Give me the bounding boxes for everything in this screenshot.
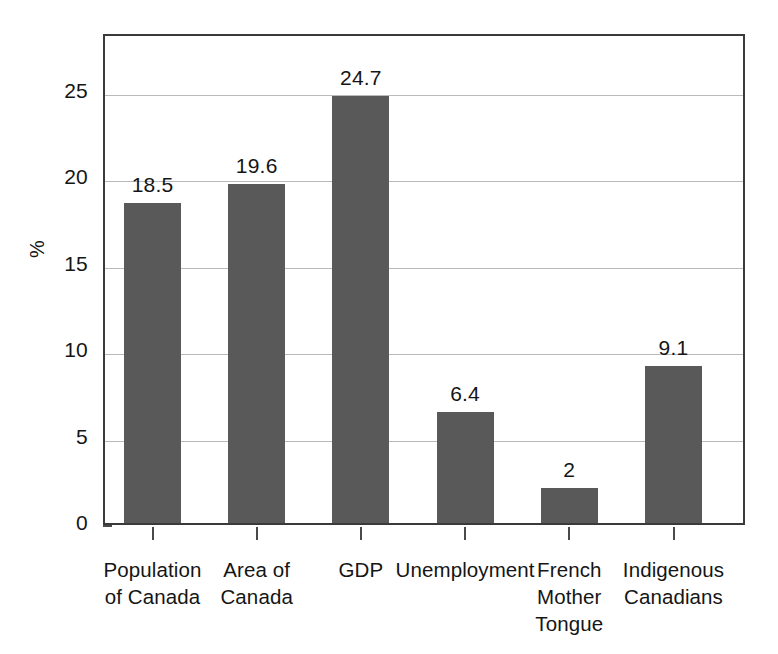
y-axis-tick-label: 0	[76, 511, 88, 535]
x-axis-tick-mark	[256, 527, 258, 540]
bar-value-label: 24.7	[310, 66, 411, 90]
x-axis-tick-mark	[673, 527, 675, 540]
x-axis-tick-mark	[152, 527, 154, 540]
x-axis-tick-mark	[568, 527, 570, 540]
bar	[124, 203, 181, 523]
y-axis-tick-label: 20	[64, 165, 88, 189]
bar	[541, 488, 598, 523]
bar	[228, 184, 285, 523]
bar	[437, 412, 494, 523]
x-axis-tick-mark	[464, 527, 466, 540]
gridline	[105, 95, 743, 96]
bar-value-label: 6.4	[415, 382, 516, 406]
y-axis-tick-labels: 0510152025	[0, 34, 88, 525]
bar-value-label: 18.5	[102, 173, 203, 197]
x-axis-category-label: Indigenous Canadians	[599, 556, 749, 610]
gridline	[105, 441, 743, 442]
x-axis-tick-mark	[360, 527, 362, 540]
y-axis-tick-mark	[103, 525, 112, 527]
bar-series	[105, 36, 743, 523]
bar-chart: % 0510152025 18.519.624.76.429.1 Populat…	[0, 0, 778, 654]
y-axis-tick-label: 25	[64, 79, 88, 103]
bar-value-label: 19.6	[206, 154, 307, 178]
y-axis-tick-label: 15	[64, 252, 88, 276]
y-axis-tick-label: 5	[76, 425, 88, 449]
bar-value-label: 9.1	[623, 336, 724, 360]
y-axis-tick-label: 10	[64, 338, 88, 362]
plot-area	[103, 34, 745, 525]
gridline	[105, 268, 743, 269]
gridline	[105, 527, 743, 528]
gridlines	[105, 36, 743, 523]
bar	[332, 96, 389, 523]
bar	[645, 366, 702, 523]
bar-value-label: 2	[519, 458, 620, 482]
